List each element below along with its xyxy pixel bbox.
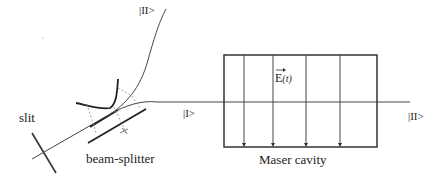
field-lines bbox=[244, 55, 340, 145]
slit-line bbox=[32, 133, 56, 173]
ket-two-top-label: |II> bbox=[139, 5, 155, 16]
field-label: E(t) bbox=[275, 72, 292, 84]
field-argument: (t) bbox=[282, 73, 291, 84]
beam-splitter-label: beam-splitter bbox=[86, 152, 155, 165]
beam-path-two bbox=[108, 9, 166, 116]
ket-one-label: |I> bbox=[183, 108, 195, 119]
maser-cavity-box bbox=[224, 55, 377, 147]
diagram-canvas bbox=[0, 0, 446, 184]
stray-dot bbox=[42, 37, 43, 38]
splitter-lower-plate bbox=[88, 109, 146, 143]
slit-label: slit bbox=[19, 111, 35, 124]
reflector-curve bbox=[76, 79, 118, 109]
beam-path-one bbox=[110, 102, 410, 114]
maser-cavity-label: Maser cavity bbox=[259, 153, 327, 166]
ket-two-right-label: |II> bbox=[408, 111, 424, 122]
